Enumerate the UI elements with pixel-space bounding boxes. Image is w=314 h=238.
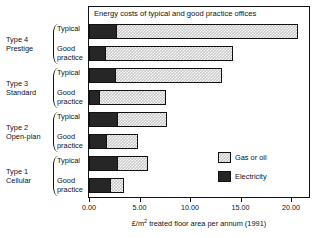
axis-title-suffix: treated floor area per annum (1991) [147, 219, 266, 228]
category-label: Type 2 Open-plan [6, 123, 52, 141]
category-label: Type 1 Cellular [6, 167, 52, 185]
bar-segment-gas-or-oil [106, 134, 138, 149]
sublabel-good-practice: Good practice [57, 132, 89, 150]
category-label: Type 3 Standard [6, 79, 52, 97]
x-axis-tick [291, 198, 292, 202]
bar-segment-gas-or-oil [117, 156, 147, 171]
bar-segment-electricity [89, 178, 111, 193]
category-label: Type 4 Prestige [6, 35, 52, 53]
x-axis-tick-label: 15.00 [224, 203, 258, 212]
category-group-type-3: Type 3 Standard Typical Good practice [0, 66, 88, 110]
chart-figure: Energy costs of typical and good practic… [0, 0, 314, 238]
legend-label: Gas or oil [235, 153, 267, 162]
category-group-type-1: Type 1 Cellular Typical Good practice [0, 154, 88, 198]
x-axis-tick [190, 198, 191, 202]
x-axis-title: £/m2 treated floor area per annum (1991) [88, 218, 310, 228]
bar-segment-gas-or-oil [99, 90, 166, 105]
x-axis-tick-label: 5.00 [123, 203, 157, 212]
sublabel-good-practice: Good practice [57, 88, 89, 106]
x-axis-tick-label: 0.00 [72, 203, 106, 212]
sublabel-typical: Typical [57, 112, 89, 121]
legend-swatch-gas-icon [218, 152, 231, 163]
bar-segment-electricity [89, 112, 118, 127]
chart-title: Energy costs of typical and good practic… [94, 9, 256, 18]
x-axis-tick [241, 198, 242, 202]
x-axis-tick-label: 20.00 [274, 203, 308, 212]
sublabel-typical: Typical [57, 24, 89, 33]
bar-segment-gas-or-oil [105, 46, 233, 61]
bar-segment-gas-or-oil [115, 68, 222, 83]
x-axis-tick [140, 198, 141, 202]
bar-segment-gas-or-oil [110, 178, 124, 193]
x-axis-tick-label: 10.00 [173, 203, 207, 212]
bar-segment-gas-or-oil [117, 112, 166, 127]
bar-segment-electricity [89, 46, 106, 61]
bar-segment-electricity [89, 134, 107, 149]
category-group-type-2: Type 2 Open-plan Typical Good practice [0, 110, 88, 154]
legend-item-electricity: Electricity [218, 171, 267, 186]
bar-segment-gas-or-oil [116, 24, 298, 39]
x-axis-tick [89, 198, 90, 202]
bar-segment-electricity [89, 156, 118, 171]
bar-segment-electricity [89, 68, 116, 83]
sublabel-good-practice: Good practice [57, 176, 89, 194]
legend-item-gas-or-oil: Gas or oil [218, 152, 267, 167]
sublabel-typical: Typical [57, 68, 89, 77]
bar-segment-electricity [89, 24, 117, 39]
sublabel-typical: Typical [57, 156, 89, 165]
legend-swatch-electricity-icon [218, 171, 231, 182]
category-group-type-4: Type 4 Prestige Typical Good practice [0, 22, 88, 66]
legend: Gas or oil Electricity [218, 152, 267, 190]
sublabel-good-practice: Good practice [57, 44, 89, 62]
legend-label: Electricity [235, 172, 267, 181]
axis-title-prefix: £/m [132, 219, 144, 228]
